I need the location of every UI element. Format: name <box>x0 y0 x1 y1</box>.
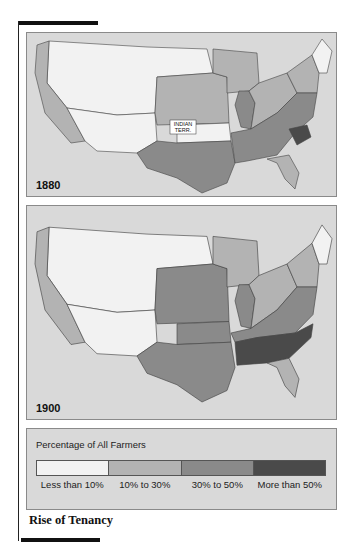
region-texas <box>137 141 235 193</box>
legend-color-bar <box>36 460 326 476</box>
region-plains <box>155 73 229 125</box>
legend-label: Less than 10% <box>36 479 109 490</box>
legend-swatch-less-than-10 <box>37 461 109 475</box>
map-year-1900: 1900 <box>36 402 60 414</box>
figure-caption: Rise of Tenancy <box>29 513 113 528</box>
legend-label: More than 50% <box>254 479 327 490</box>
region-oklahoma <box>177 322 231 345</box>
left-rule <box>18 21 19 541</box>
region-southwest <box>67 108 157 153</box>
legend-label: 30% to 50% <box>181 479 254 490</box>
top-rule <box>18 21 98 25</box>
bottom-rule <box>21 538 100 542</box>
region-southwest <box>67 304 157 356</box>
us-map-1900 <box>27 206 338 421</box>
map-panel-1900: 1900 <box>26 205 337 420</box>
legend-label: 10% to 30% <box>109 479 182 490</box>
legend-swatch-30-to-50 <box>182 461 254 475</box>
map-panel-1880: INDIAN TERR. 1880 <box>26 32 337 197</box>
legend-swatch-10-to-30 <box>109 461 181 475</box>
region-florida <box>267 358 299 397</box>
svg-text:TERR.: TERR. <box>175 127 192 133</box>
legend-labels: Less than 10% 10% to 30% 30% to 50% More… <box>36 479 326 490</box>
region-florida <box>267 155 299 189</box>
us-map-1880: INDIAN TERR. <box>27 33 338 198</box>
region-south-carolina <box>289 125 311 145</box>
legend: Percentage of All Farmers Less than 10% … <box>26 428 337 510</box>
map-year-1880: 1880 <box>36 179 60 191</box>
legend-swatch-more-than-50 <box>254 461 325 475</box>
legend-title: Percentage of All Farmers <box>36 439 146 450</box>
region-plains <box>155 264 229 324</box>
region-texas <box>137 342 235 402</box>
